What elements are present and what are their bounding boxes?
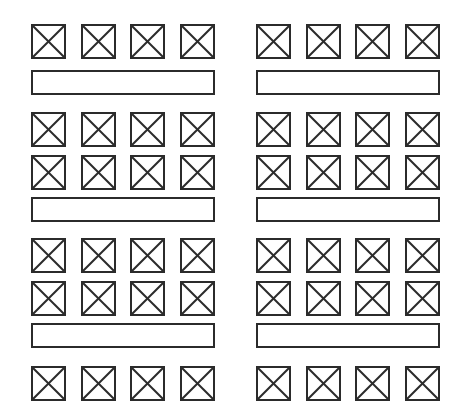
- crossed-box-icon: [83, 26, 114, 57]
- crossed-box-icon: [357, 240, 388, 271]
- image-placeholder-row: [256, 281, 440, 316]
- crossed-box-icon: [33, 114, 64, 145]
- image-placeholder[interactable]: [256, 112, 291, 147]
- crossed-box-icon: [132, 26, 163, 57]
- image-placeholder[interactable]: [256, 155, 291, 190]
- crossed-box-icon: [357, 157, 388, 188]
- image-placeholder[interactable]: [180, 112, 215, 147]
- image-placeholder-row: [31, 24, 215, 59]
- crossed-box-icon: [83, 157, 114, 188]
- image-placeholder-row: [256, 155, 440, 190]
- image-placeholder[interactable]: [306, 112, 341, 147]
- crossed-box-icon: [83, 240, 114, 271]
- image-placeholder[interactable]: [405, 24, 440, 59]
- image-placeholder[interactable]: [31, 238, 66, 273]
- image-placeholder[interactable]: [355, 112, 390, 147]
- image-placeholder-row: [31, 155, 215, 190]
- image-placeholder[interactable]: [355, 281, 390, 316]
- image-placeholder-row: [256, 112, 440, 147]
- image-placeholder[interactable]: [130, 155, 165, 190]
- image-placeholder[interactable]: [81, 24, 116, 59]
- bar-placeholder[interactable]: [256, 70, 440, 95]
- image-placeholder-row: [256, 238, 440, 273]
- crossed-box-icon: [83, 283, 114, 314]
- image-placeholder[interactable]: [130, 238, 165, 273]
- image-placeholder[interactable]: [81, 238, 116, 273]
- crossed-box-icon: [357, 26, 388, 57]
- crossed-box-icon: [308, 157, 339, 188]
- image-placeholder[interactable]: [81, 112, 116, 147]
- image-placeholder[interactable]: [405, 112, 440, 147]
- crossed-box-icon: [132, 240, 163, 271]
- crossed-box-icon: [407, 283, 438, 314]
- bar-placeholder[interactable]: [31, 323, 215, 348]
- image-placeholder[interactable]: [81, 366, 116, 401]
- crossed-box-icon: [132, 368, 163, 399]
- crossed-box-icon: [308, 283, 339, 314]
- bar-placeholder-row: [256, 197, 440, 222]
- crossed-box-icon: [357, 114, 388, 145]
- crossed-box-icon: [258, 283, 289, 314]
- image-placeholder[interactable]: [81, 155, 116, 190]
- crossed-box-icon: [357, 283, 388, 314]
- crossed-box-icon: [182, 114, 213, 145]
- image-placeholder[interactable]: [81, 281, 116, 316]
- image-placeholder[interactable]: [306, 281, 341, 316]
- crossed-box-icon: [83, 368, 114, 399]
- bar-placeholder[interactable]: [256, 197, 440, 222]
- image-placeholder[interactable]: [31, 281, 66, 316]
- image-placeholder[interactable]: [256, 366, 291, 401]
- image-placeholder[interactable]: [130, 281, 165, 316]
- image-placeholder[interactable]: [355, 24, 390, 59]
- image-placeholder[interactable]: [180, 238, 215, 273]
- image-placeholder[interactable]: [130, 24, 165, 59]
- crossed-box-icon: [407, 26, 438, 57]
- image-placeholder[interactable]: [405, 238, 440, 273]
- crossed-box-icon: [33, 26, 64, 57]
- image-placeholder[interactable]: [306, 366, 341, 401]
- image-placeholder[interactable]: [256, 238, 291, 273]
- bar-placeholder-row: [256, 70, 440, 95]
- image-placeholder[interactable]: [405, 366, 440, 401]
- bar-placeholder[interactable]: [256, 323, 440, 348]
- crossed-box-icon: [182, 240, 213, 271]
- image-placeholder-row: [31, 366, 215, 401]
- image-placeholder[interactable]: [180, 366, 215, 401]
- image-placeholder[interactable]: [405, 155, 440, 190]
- bar-placeholder-row: [31, 323, 215, 348]
- image-placeholder[interactable]: [405, 281, 440, 316]
- crossed-box-icon: [33, 240, 64, 271]
- image-placeholder[interactable]: [306, 24, 341, 59]
- image-placeholder[interactable]: [180, 281, 215, 316]
- image-placeholder[interactable]: [31, 155, 66, 190]
- image-placeholder[interactable]: [31, 24, 66, 59]
- image-placeholder[interactable]: [306, 238, 341, 273]
- crossed-box-icon: [357, 368, 388, 399]
- crossed-box-icon: [308, 26, 339, 57]
- crossed-box-icon: [182, 26, 213, 57]
- image-placeholder[interactable]: [256, 281, 291, 316]
- image-placeholder-row: [31, 281, 215, 316]
- image-placeholder[interactable]: [130, 366, 165, 401]
- bar-placeholder[interactable]: [31, 70, 215, 95]
- crossed-box-icon: [258, 157, 289, 188]
- image-placeholder[interactable]: [31, 112, 66, 147]
- crossed-box-icon: [407, 114, 438, 145]
- image-placeholder[interactable]: [355, 366, 390, 401]
- image-placeholder[interactable]: [130, 112, 165, 147]
- bar-placeholder-row: [31, 197, 215, 222]
- image-placeholder[interactable]: [180, 24, 215, 59]
- image-placeholder[interactable]: [306, 155, 341, 190]
- image-placeholder[interactable]: [355, 238, 390, 273]
- image-placeholder[interactable]: [355, 155, 390, 190]
- crossed-box-icon: [132, 114, 163, 145]
- image-placeholder[interactable]: [256, 24, 291, 59]
- bar-placeholder-row: [31, 70, 215, 95]
- crossed-box-icon: [33, 368, 64, 399]
- bar-placeholder[interactable]: [31, 197, 215, 222]
- image-placeholder[interactable]: [180, 155, 215, 190]
- image-placeholder-row: [256, 24, 440, 59]
- image-placeholder[interactable]: [31, 366, 66, 401]
- crossed-box-icon: [258, 26, 289, 57]
- image-placeholder-row: [256, 366, 440, 401]
